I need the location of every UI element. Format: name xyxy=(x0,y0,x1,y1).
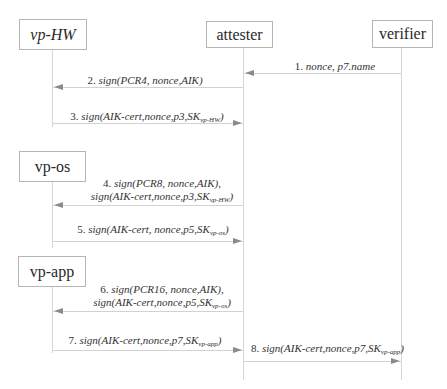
actor-label: verifier xyxy=(379,25,426,43)
message-4-line xyxy=(53,205,243,206)
arrowhead-left-icon xyxy=(54,84,63,90)
arrowhead-right-icon xyxy=(233,347,242,353)
lifeline-attester xyxy=(243,48,244,380)
message-5-label: 5. sign(AIK-cert, nonce,p5,SKvp-os) xyxy=(68,223,238,240)
arrowhead-left-icon xyxy=(245,70,254,76)
message-7-label: 7. sign(AIK-cert,nonce,p7,SKvp-app) xyxy=(60,334,230,351)
lifeline-vp-app xyxy=(52,287,53,353)
message-4-label: 4. sign(PCR8, nonce,AIK), sign(AIK-cert,… xyxy=(82,177,242,207)
message-8-label: 8. sign(AIK-cert,nonce,p7,SKvp-app) xyxy=(250,342,405,359)
actor-verifier: verifier xyxy=(372,20,433,48)
lifeline-vp-hw xyxy=(52,50,53,127)
actor-attester: attester xyxy=(206,21,273,48)
message-3-label: 3. sign(AIK-cert,nonce,p3,SKvp-HW) xyxy=(62,110,232,127)
message-3-line xyxy=(53,123,243,124)
arrowhead-right-icon xyxy=(391,358,400,364)
actor-label: vp-app xyxy=(30,263,74,281)
actor-vp-app: vp-app xyxy=(18,256,86,287)
lifeline-verifier xyxy=(401,48,402,380)
message-6-label: 6. sign(PCR16, nonce,AIK), sign(AIK-cert… xyxy=(82,283,242,313)
arrowhead-right-icon xyxy=(233,120,242,126)
lifeline-vp-os xyxy=(52,182,53,248)
message-5-line xyxy=(53,241,243,242)
arrowhead-right-icon xyxy=(233,238,242,244)
actor-label: vp-HW xyxy=(30,26,75,44)
message-1-line xyxy=(244,73,401,74)
actor-label: vp-os xyxy=(35,158,71,176)
message-8-line xyxy=(244,361,401,362)
actor-vp-hw: vp-HW xyxy=(19,19,87,50)
message-2-label: 2. sign(PCR4, nonce,AIK) xyxy=(70,74,220,87)
message-2-line xyxy=(53,87,243,88)
message-7-line xyxy=(53,350,243,351)
message-1-label: 1. nonce, p7.name xyxy=(285,60,385,73)
actor-vp-os: vp-os xyxy=(19,151,86,182)
message-6-line xyxy=(53,311,243,312)
actor-label: attester xyxy=(216,26,262,44)
arrowhead-left-icon xyxy=(54,308,63,314)
arrowhead-left-icon xyxy=(54,202,63,208)
